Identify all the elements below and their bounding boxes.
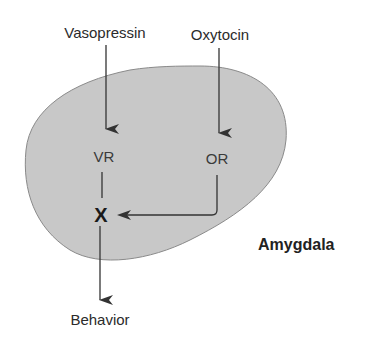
behavior-label: Behavior	[70, 311, 129, 328]
amygdala-label: Amygdala	[258, 236, 335, 253]
oxytocin-label: Oxytocin	[191, 26, 249, 43]
amygdala-region	[25, 66, 286, 260]
integration-node-label: X	[94, 204, 108, 226]
vasopressin-label: Vasopressin	[64, 24, 145, 41]
vr-label: VR	[94, 148, 115, 165]
amygdala-pathway-diagram: Vasopressin Oxytocin VR OR X Amygdala Be…	[0, 0, 367, 349]
or-label: OR	[206, 150, 229, 167]
